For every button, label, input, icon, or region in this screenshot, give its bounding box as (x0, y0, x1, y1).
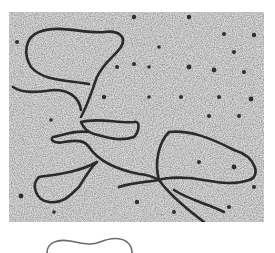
electron-micrograph (9, 12, 264, 222)
replication-schematic (40, 234, 140, 253)
micrograph-background (9, 12, 264, 222)
schematic-strand (47, 239, 132, 253)
